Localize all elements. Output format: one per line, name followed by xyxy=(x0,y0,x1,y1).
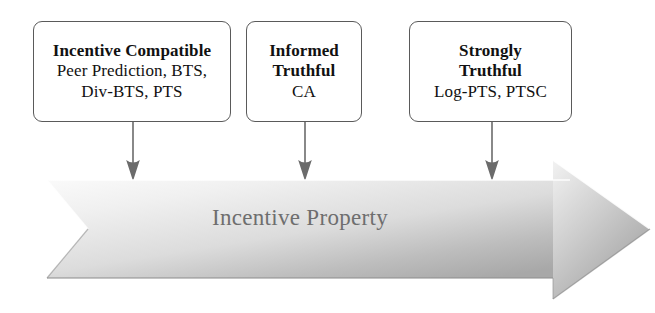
category-title-line-1: Informed xyxy=(269,41,339,61)
category-items-line-1: CA xyxy=(292,82,316,102)
category-box-incentive-compatible: Incentive Compatible Peer Prediction, BT… xyxy=(33,21,231,122)
category-items-line-2: Div-BTS, PTS xyxy=(81,82,182,102)
category-title-line-2: Truthful xyxy=(459,61,522,81)
diagram-canvas: Incentive Compatible Peer Prediction, BT… xyxy=(0,0,655,313)
category-title-line-1: Strongly xyxy=(459,41,522,61)
incentive-property-arrow xyxy=(0,152,655,307)
category-title: Incentive Compatible xyxy=(53,41,211,61)
category-box-strongly-truthful: Strongly Truthful Log-PTS, PTSC xyxy=(409,21,572,122)
category-box-informed-truthful: Informed Truthful CA xyxy=(246,21,362,122)
category-items-line-1: Log-PTS, PTSC xyxy=(434,82,547,102)
category-items-line-1: Peer Prediction, BTS, xyxy=(57,61,207,81)
category-title-line-2: Truthful xyxy=(273,61,336,81)
